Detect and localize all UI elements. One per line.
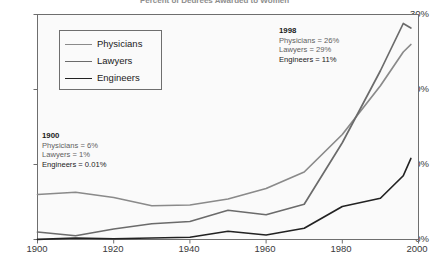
legend: Physicians Lawyers Engineers: [59, 30, 162, 90]
legend-swatch-physicians: [65, 44, 92, 45]
annotation-1900-engineers: Engineers = 0.01%: [42, 160, 106, 170]
annotation-1900-lawyers: Lawyers = 1%: [42, 150, 106, 160]
legend-swatch-lawyers: [65, 61, 92, 62]
annotation-1900-year: 1900: [42, 131, 106, 141]
annotation-1998-lawyers: Lawyers = 29%: [279, 45, 339, 55]
legend-item-lawyers: Lawyers: [65, 53, 132, 69]
y-axis-ticks: [34, 15, 38, 240]
legend-swatch-engineers: [65, 78, 92, 79]
legend-item-physicians: Physicians: [65, 36, 142, 52]
annotation-1998-physicians: Physicians = 26%: [279, 36, 339, 46]
annotation-1998: 1998 Physicians = 26% Lawyers = 29% Engi…: [279, 26, 339, 64]
annotation-1998-engineers: Engineers = 11%: [279, 55, 339, 65]
annotation-1900-physicians: Physicians = 6%: [42, 141, 106, 151]
annotation-1900: 1900 Physicians = 6% Lawyers = 1% Engine…: [42, 131, 106, 169]
legend-label-physicians: Physicians: [97, 39, 142, 49]
annotation-1998-year: 1998: [279, 26, 339, 36]
legend-label-engineers: Engineers: [97, 73, 140, 83]
legend-item-engineers: Engineers: [65, 70, 140, 86]
x-axis-ticks: [38, 240, 419, 244]
legend-label-lawyers: Lawyers: [97, 56, 132, 66]
